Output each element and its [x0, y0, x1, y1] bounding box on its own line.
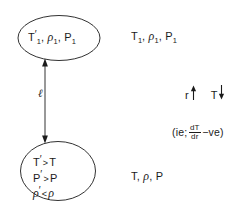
- blob-top-temperature: T: [28, 31, 35, 43]
- blob-top-state-label: T′1, ρ1, P1: [28, 31, 76, 43]
- blob-top-pressure: P: [64, 31, 72, 43]
- ambient-top-density: ρ: [149, 29, 155, 43]
- derivative-numerator: dT: [189, 124, 201, 132]
- ambient-top-pressure-subscript: 1: [173, 36, 177, 45]
- row-3-prime: ′: [39, 185, 41, 196]
- ambient-top-temperature-subscript: 1: [138, 36, 142, 45]
- blob-top-density-subscript: 1: [53, 37, 57, 46]
- row-3-right: ρ: [48, 186, 54, 200]
- blob-bottom-row-temperature: T′>T: [33, 155, 57, 171]
- blob-bottom-row-density: ρ′<ρ: [33, 186, 57, 202]
- derivative-denominator: dr: [189, 132, 201, 141]
- blob-bottom-inequalities: T′>T P′>P ρ′<ρ: [33, 155, 57, 202]
- blob-bottom-outline: [21, 142, 96, 201]
- derivative-sign: −ve: [202, 126, 220, 138]
- displacement-length-label: ℓ: [38, 88, 43, 99]
- arrow-down-icon: [217, 85, 226, 102]
- radius-increase-pair: r: [185, 84, 198, 101]
- row-1-right: T: [49, 156, 56, 168]
- row-1-prime: ′: [40, 154, 42, 165]
- derivative-note-close: ): [220, 126, 224, 138]
- row-2-right: P: [50, 172, 58, 184]
- row-2-relation: >: [42, 174, 49, 184]
- row-1-left: T: [33, 156, 40, 168]
- gradient-direction-group: rT: [185, 84, 226, 101]
- arrow-up-icon: [189, 85, 198, 102]
- ambient-state-top-label: T1, ρ1, P1: [131, 30, 177, 42]
- temperature-symbol: T: [211, 89, 218, 101]
- derivative-fraction: dTdr: [189, 124, 201, 142]
- ambient-bottom-pressure: P: [156, 170, 164, 182]
- ambient-top-temperature: T: [131, 30, 138, 42]
- ambient-state-bottom-label: T, ρ, P: [131, 170, 163, 182]
- derivative-note-open: (ie;: [172, 126, 187, 138]
- blob-top-pressure-subscript: 1: [72, 37, 76, 46]
- row-2-prime: ′: [40, 169, 42, 180]
- blob-bottom-row-pressure: P′>P: [33, 171, 57, 187]
- temperature-decrease-pair: T: [211, 84, 227, 101]
- blob-top-temperature-subscript: 1: [37, 37, 41, 46]
- ambient-top-pressure: P: [165, 30, 173, 42]
- figure-canvas: T′1, ρ1, P1 T′>T P′>P ρ′<ρ ℓ T1, ρ1, P1 …: [0, 0, 248, 210]
- ambient-top-density-subscript: 1: [155, 36, 159, 45]
- derivative-sign-note: (ie;dTdr−ve): [172, 124, 224, 142]
